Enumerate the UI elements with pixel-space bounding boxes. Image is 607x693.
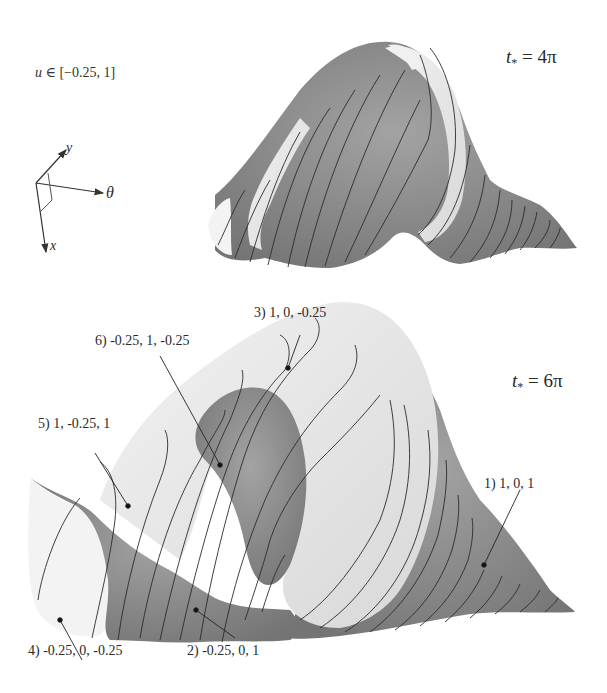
axis-label-x: x: [50, 238, 56, 254]
panel-title-bottom: t* = 6π: [512, 370, 563, 395]
figure-canvas: [0, 0, 607, 693]
surface-top: [208, 42, 577, 268]
panel-title-top: t* = 4π: [506, 46, 557, 71]
annotation-6: 6) -0.25, 1, -0.25: [95, 333, 190, 349]
annotation-1: 1) 1, 0, 1: [484, 476, 534, 492]
axes-glyph: [36, 150, 103, 252]
annotation-2: 2) -0.25, 0, 1: [187, 643, 259, 659]
annotation-4: 4) -0.25, 0, -0.25: [28, 643, 123, 659]
axis-label-y: y: [66, 140, 72, 156]
annotation-3: 3) 1, 0, -0.25: [254, 305, 326, 321]
annotation-5: 5) 1, -0.25, 1: [38, 416, 110, 432]
axis-label-theta: θ: [106, 184, 114, 202]
